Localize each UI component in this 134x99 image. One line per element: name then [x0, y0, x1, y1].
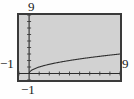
- chart-figure: 9 −1 9 −1: [0, 0, 134, 99]
- plot-frame: [17, 13, 122, 82]
- plot-canvas: [19, 15, 120, 80]
- x-axis-min-label: −1: [21, 83, 35, 96]
- data-curve: [29, 54, 120, 74]
- y-axis-min-label: −1: [0, 57, 14, 70]
- x-axis-max-label: 9: [122, 57, 129, 70]
- y-axis-max-label: 9: [28, 0, 35, 13]
